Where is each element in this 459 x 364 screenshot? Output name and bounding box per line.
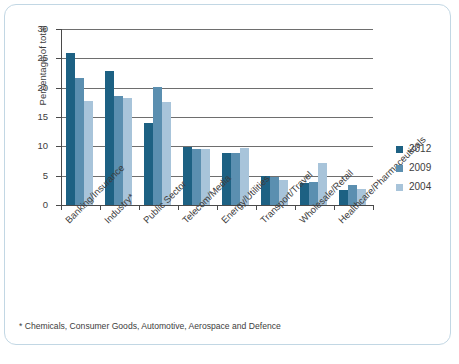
x-tick-mark	[256, 205, 257, 210]
bar	[123, 98, 132, 205]
legend-item-2012[interactable]: 2012	[396, 141, 431, 157]
bar	[114, 96, 123, 205]
bar	[144, 123, 153, 205]
legend-swatch-icon	[396, 146, 403, 153]
bar	[66, 53, 75, 205]
x-tick-mark	[61, 205, 62, 210]
legend-label: 2004	[409, 182, 431, 192]
chart-footnote: * Chemicals, Consumer Goods, Automotive,…	[19, 321, 281, 331]
x-tick-mark	[373, 205, 374, 210]
x-tick-mark	[100, 205, 101, 210]
legend-swatch-icon	[396, 184, 403, 191]
x-tick-mark	[217, 205, 218, 210]
chart-legend: 201220092004	[396, 141, 431, 198]
chart-figure: Percentage of total 051015202530 Banking…	[0, 0, 459, 364]
legend-label: 2009	[409, 163, 431, 173]
legend-swatch-icon	[396, 165, 403, 172]
legend-label: 2012	[409, 144, 431, 154]
bar-group	[183, 29, 211, 205]
bar-group	[144, 29, 172, 205]
y-tick-label: 30	[24, 24, 48, 34]
y-tick-label: 15	[24, 112, 48, 122]
bar	[153, 87, 162, 205]
legend-item-2009[interactable]: 2009	[396, 160, 431, 176]
bar	[183, 147, 192, 205]
y-tick-label: 10	[24, 141, 48, 151]
legend-item-2004[interactable]: 2004	[396, 179, 431, 195]
bar-group	[66, 29, 94, 205]
y-tick-label: 0	[24, 200, 48, 210]
x-tick-mark	[334, 205, 335, 210]
x-tick-mark	[295, 205, 296, 210]
x-tick-mark	[178, 205, 179, 210]
bar	[339, 190, 348, 205]
y-tick-label: 25	[24, 53, 48, 63]
y-tick-label: 20	[24, 83, 48, 93]
bar	[75, 78, 84, 205]
x-tick-mark	[139, 205, 140, 210]
y-tick-label: 5	[24, 171, 48, 181]
